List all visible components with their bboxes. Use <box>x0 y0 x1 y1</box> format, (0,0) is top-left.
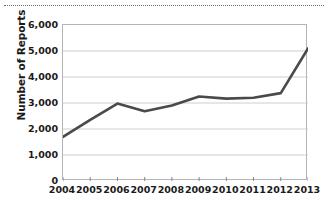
y-axis-tick-label: 3,000 <box>16 97 58 108</box>
data-series-line <box>63 48 308 136</box>
y-axis-tick-label: 5,000 <box>16 45 58 56</box>
y-axis-tick-label: 4,000 <box>16 71 58 82</box>
y-axis-tick-label: 6,000 <box>16 19 58 30</box>
y-axis-tick-label: 2,000 <box>16 123 58 134</box>
y-axis-tick-labels: 01,0002,0003,0004,0005,0006,000 <box>16 18 58 186</box>
x-axis-tick-marks <box>63 177 308 181</box>
plot-area <box>62 24 307 180</box>
chart-figure: Number of Reports 01,0002,0003,0004,0005… <box>0 0 328 203</box>
gridlines <box>63 51 308 155</box>
y-axis-tick-label: 1,000 <box>16 149 58 160</box>
x-axis-tick-label: 2013 <box>290 184 324 196</box>
dotted-separator-line <box>4 5 324 6</box>
x-axis-tick-labels: 2004200520062007200820092010201120122013 <box>62 184 307 200</box>
line-chart-svg <box>63 25 308 181</box>
